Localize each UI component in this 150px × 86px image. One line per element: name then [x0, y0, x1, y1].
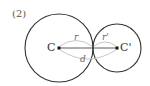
center-c-prime-label: C' — [120, 41, 131, 54]
center-c-point — [58, 47, 61, 50]
radius-r-label: r — [74, 32, 78, 42]
radius-r-prime-label: r' — [102, 32, 109, 42]
distance-d-arc — [60, 50, 116, 59]
center-c-label: C — [47, 41, 55, 54]
distance-d-label: d — [80, 54, 86, 64]
radius-r-prime-arc — [94, 42, 116, 46]
center-c-prime-point — [116, 47, 119, 50]
